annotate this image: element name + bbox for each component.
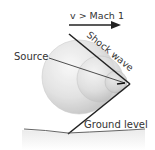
source-label: Source <box>14 51 48 62</box>
ground-level-label: Ground level <box>84 119 148 130</box>
velocity-label: v > Mach 1 <box>70 10 124 21</box>
source-marker <box>117 83 125 84</box>
velocity-arrow-head-icon <box>111 21 121 29</box>
ground-shading <box>22 130 145 150</box>
shock-wave-diagram: v > Mach 1 Shock wave Source Ground leve… <box>0 0 155 150</box>
